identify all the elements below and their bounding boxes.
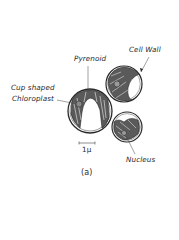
large-cell: [68, 89, 112, 133]
upper-right-cell: [106, 66, 142, 102]
chloroplast-label-line2: Chloroplast: [12, 95, 54, 103]
nucleus-label: Nucleus: [126, 156, 155, 164]
chloroplast-label-line1: Cup shaped: [11, 84, 55, 92]
cell-wall-label: Cell Wall: [129, 46, 161, 54]
scale-bar-label: 1μ: [82, 146, 91, 154]
figure-caption: (a): [81, 169, 92, 177]
pyrenoid-label: Pyrenoid: [74, 55, 106, 63]
